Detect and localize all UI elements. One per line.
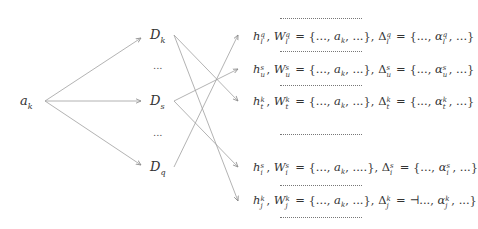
equation-row-is: hsi, Wsi = {..., ak, ....}, Δsi = {..., … (253, 161, 478, 179)
equation-row-jk: hkj, Wkj = {..., ak, ...}, Δkj = ⊣..., α… (253, 194, 477, 212)
ellipsis-lower: ... (153, 127, 163, 138)
separator-3 (280, 85, 362, 86)
separator-1 (280, 18, 362, 19)
node-a-k: ak (20, 94, 33, 114)
separator-4 (280, 134, 362, 135)
ellipsis-upper: ... (153, 60, 163, 71)
separator-6 (280, 217, 362, 218)
edge-ds-is (174, 101, 238, 167)
edge-dk-jk (174, 35, 238, 201)
equation-row-tk: hkt, Wkt = {..., ak, ...}, Δkt = {..., α… (253, 95, 474, 113)
edge-ds-us (174, 69, 238, 101)
node-d-k: Dk (150, 28, 165, 48)
edge-ak-dq (45, 101, 141, 165)
equation-row-lq: hql, Wql = {..., ak, ...}, Δql = {..., α… (253, 30, 474, 48)
equation-row-us: hsu, Wsu = {..., ak, ...}, Δsu = {..., α… (253, 63, 474, 81)
edge-ak-dk (45, 38, 141, 101)
separator-5 (280, 185, 362, 186)
edge-dq-lq (174, 35, 238, 167)
separator-2 (280, 51, 362, 52)
node-d-q: Dq (150, 160, 166, 180)
edge-dk-tk (174, 35, 238, 101)
node-d-s: Ds (150, 94, 165, 114)
